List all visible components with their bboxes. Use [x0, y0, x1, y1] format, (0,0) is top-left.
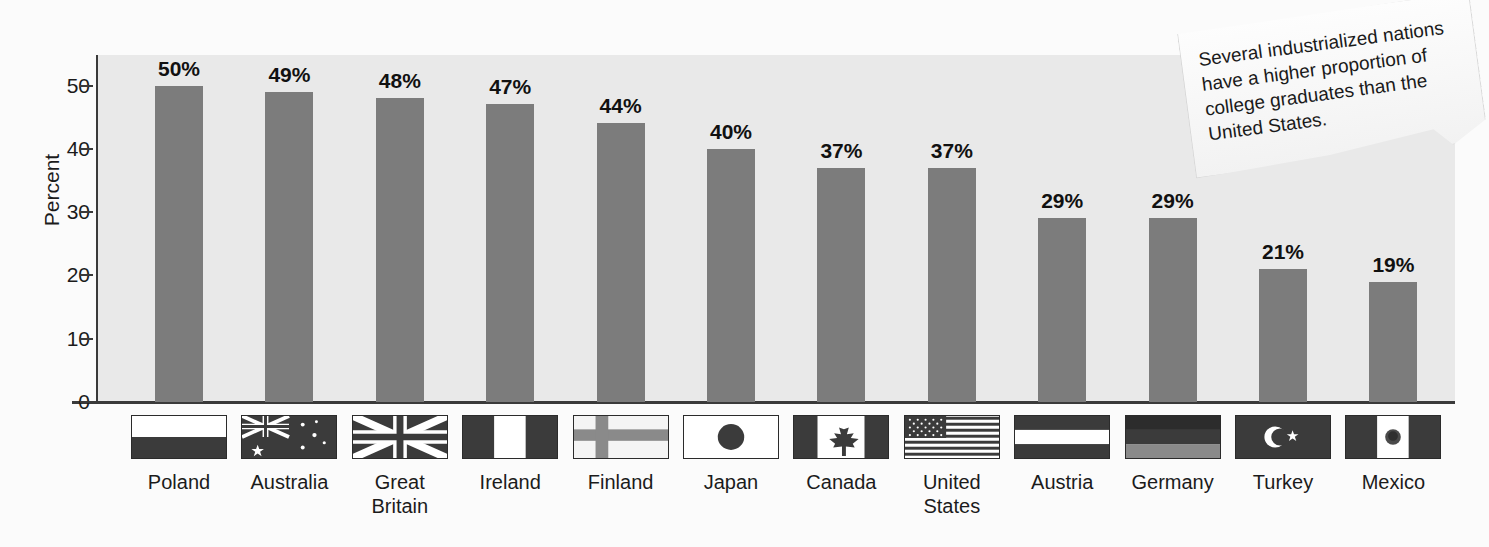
category-label-line: Australia	[229, 470, 349, 494]
finland-flag	[573, 415, 669, 459]
bar-value-label: 49%	[249, 64, 329, 85]
category-label-line: Finland	[561, 470, 681, 494]
bar-value-label: 19%	[1353, 254, 1433, 275]
bar	[597, 123, 645, 402]
bar-value-label: 21%	[1243, 241, 1323, 262]
bar-value-label: 40%	[691, 121, 771, 142]
bar	[928, 168, 976, 402]
x-axis-category-label: Finland	[561, 470, 681, 494]
category-label-line: Ireland	[450, 470, 570, 494]
germany-flag	[1125, 415, 1221, 459]
bar-value-label: 47%	[470, 76, 550, 97]
x-axis-category-label: Canada	[781, 470, 901, 494]
bar	[155, 86, 203, 403]
x-axis-category-label: Germany	[1113, 470, 1233, 494]
bar	[817, 168, 865, 402]
bar-value-label: 48%	[360, 70, 440, 91]
bar	[265, 92, 313, 402]
scan-bleed-bottom	[0, 505, 1469, 547]
category-label-line: United	[892, 470, 1012, 494]
bar-value-label: 37%	[801, 140, 881, 161]
y-axis-line	[96, 55, 98, 403]
bar	[486, 104, 534, 402]
poland-flag	[131, 415, 227, 459]
y-axis-tick-mark	[80, 211, 93, 213]
great-britain-flag	[352, 415, 448, 459]
bar-value-label: 29%	[1022, 190, 1102, 211]
category-label-line: Turkey	[1223, 470, 1343, 494]
category-label-line: Mexico	[1333, 470, 1453, 494]
y-axis-tick-mark	[80, 85, 93, 87]
bar	[1038, 218, 1086, 402]
x-axis-category-label: Austria	[1002, 470, 1122, 494]
x-axis-category-label: Poland	[119, 470, 239, 494]
y-axis-tick-mark	[80, 274, 93, 276]
x-axis-category-label: Japan	[671, 470, 791, 494]
ireland-flag	[462, 415, 558, 459]
bar	[1369, 282, 1417, 402]
x-axis-category-label: Ireland	[450, 470, 570, 494]
japan-flag	[683, 415, 779, 459]
x-axis-category-label: UnitedStates	[892, 470, 1012, 519]
category-label-line: Britain	[340, 494, 460, 518]
category-label-line: States	[892, 494, 1012, 518]
category-label-line: Great	[340, 470, 460, 494]
bar	[1149, 218, 1197, 402]
y-axis-tick-mark	[80, 401, 93, 403]
bar-value-label: 50%	[139, 58, 219, 79]
x-axis-category-label: Turkey	[1223, 470, 1343, 494]
bar-value-label: 29%	[1133, 190, 1213, 211]
x-axis-category-label: Mexico	[1333, 470, 1453, 494]
mexico-flag	[1345, 415, 1441, 459]
austria-flag	[1014, 415, 1110, 459]
category-label-line: Canada	[781, 470, 901, 494]
x-axis-category-label: Australia	[229, 470, 349, 494]
bar-value-label: 44%	[581, 95, 661, 116]
australia-flag	[241, 415, 337, 459]
category-label-line: Japan	[671, 470, 791, 494]
bar-value-label: 37%	[912, 140, 992, 161]
y-axis-tick-mark	[80, 148, 93, 150]
category-label-line: Poland	[119, 470, 239, 494]
bar	[707, 149, 755, 402]
y-axis-tick-mark	[80, 338, 93, 340]
turkey-flag	[1235, 415, 1331, 459]
united-states-flag	[904, 415, 1000, 459]
bar	[1259, 269, 1307, 402]
canada-flag	[793, 415, 889, 459]
bar	[376, 98, 424, 402]
category-label-line: Germany	[1113, 470, 1233, 494]
x-axis-category-label: GreatBritain	[340, 470, 460, 519]
category-label-line: Austria	[1002, 470, 1122, 494]
